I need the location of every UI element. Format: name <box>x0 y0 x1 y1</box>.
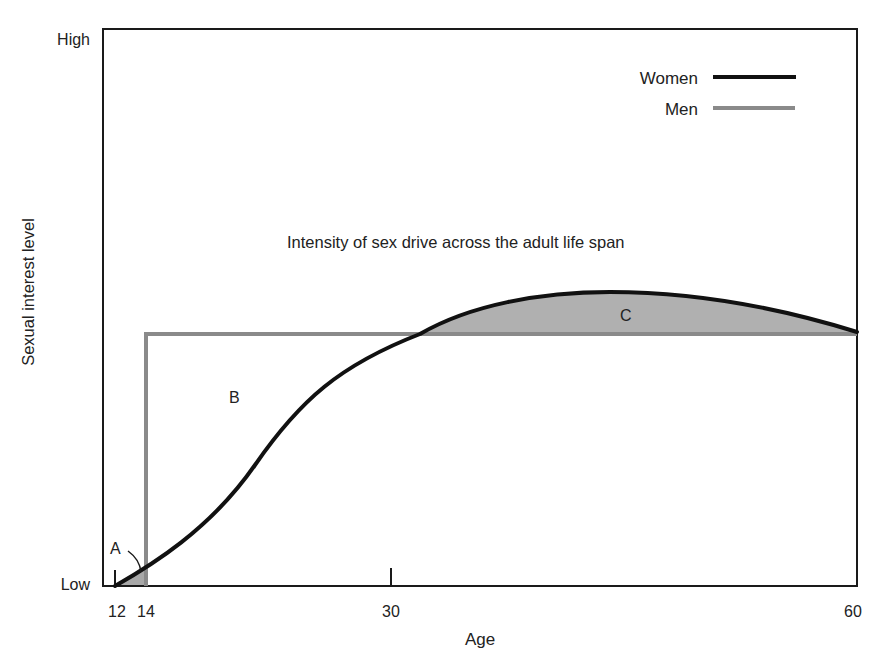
annotation-c: C <box>620 307 632 324</box>
legend-men-label: Men <box>665 100 698 119</box>
women-line <box>115 292 857 586</box>
annotation-a: A <box>110 540 121 557</box>
legend-women-label: Women <box>640 69 698 88</box>
chart-title: Intensity of sex drive across the adult … <box>287 233 625 251</box>
x-tick-12: 12 <box>108 603 126 620</box>
annotation-a-pointer <box>128 551 141 572</box>
chart: Women Men Intensity of sex drive across … <box>0 0 877 661</box>
annotation-b: B <box>229 389 240 406</box>
y-axis-title: Sexual interest level <box>19 218 37 366</box>
x-tick-14: 14 <box>137 603 155 620</box>
x-tick-60: 60 <box>844 603 862 620</box>
y-tick-low: Low <box>61 576 91 593</box>
y-tick-high: High <box>57 31 90 48</box>
x-tick-30: 30 <box>382 603 400 620</box>
x-axis-title: Age <box>465 630 495 649</box>
men-line <box>146 334 857 586</box>
